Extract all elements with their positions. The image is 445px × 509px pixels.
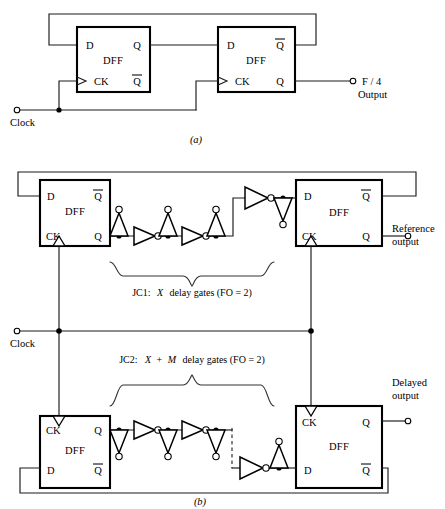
jc1-load-inverter-1-bubble — [116, 206, 122, 212]
panel-a-dff1-pin-qbar: Q — [133, 76, 141, 87]
panel-b-dff-tl-pin-q: Q — [94, 231, 102, 242]
panel-a-caption: (a) — [190, 134, 203, 146]
jc2-load-inverter-2-bubble — [165, 453, 171, 459]
panel-b-caption: (b) — [194, 496, 207, 508]
panel-b-clock-label: Clock — [10, 338, 36, 349]
jc2-load-inverter-1-bubble — [116, 453, 122, 459]
circuit-diagram: D Q DFF CK Q D Q DFF CK Q Clock F / 4 Ou… — [0, 0, 445, 509]
jc2-label-prefix: JC2: — [119, 354, 137, 365]
panel-a-clock-terminal — [14, 107, 20, 113]
jc2-chain-inverter-2 — [182, 421, 203, 439]
jc2-output-load-inverter-bubble — [276, 438, 282, 444]
jc1-inverter-chain — [110, 187, 296, 245]
panel-a-clock-label: Clock — [10, 117, 36, 128]
jc1-final-inverter — [245, 187, 268, 209]
jc1-brace — [110, 262, 274, 286]
panel-b-dff-bl-pin-qbar: Q — [94, 465, 102, 476]
panel-b-delayed-output-label-2: output — [392, 390, 419, 401]
jc2-brace — [110, 375, 274, 406]
jc1-chain-inverter-2 — [182, 227, 203, 245]
panel-b-delayed-output-terminal — [405, 418, 411, 424]
panel-b-dff-tl-pin-d: D — [47, 191, 55, 202]
jc1-load-inverter-3-bubble — [213, 206, 219, 212]
panel-b-delayed-output-label-1: Delayed — [392, 377, 428, 388]
panel-b-dff-tr-pin-qbar: Q — [362, 191, 370, 202]
panel-b-dff-tr-body: DFF — [329, 207, 349, 218]
jc2-final-inverter — [240, 457, 263, 479]
panel-a-clock-branch-dff1 — [59, 81, 77, 110]
panel-b-reference-output-label-1: Reference — [392, 223, 435, 234]
panel-a-clock-branch-dff2 — [196, 81, 218, 110]
panel-a-dff1-body: DFF — [103, 55, 123, 66]
panel-b-dff-tl-body: DFF — [65, 206, 85, 217]
panel-b-clock-right-node — [308, 328, 314, 334]
jc1-load-inverter-1 — [110, 213, 128, 236]
panel-b-dff-bl-pin-d: D — [47, 465, 55, 476]
panel-a-dff1-pin-d: D — [86, 40, 94, 51]
jc2-final-inverter-bubble — [263, 465, 269, 471]
jc1-riser-wire — [225, 198, 245, 236]
jc1-label: JC1: X delay gates (FO = 2) — [132, 287, 252, 299]
jc1-load-inverter-2-bubble — [165, 206, 171, 212]
panel-b-dff-tr-pin-d: D — [304, 191, 312, 202]
jc2-output-load-inverter — [270, 445, 288, 468]
jc2-label-var1: X — [144, 354, 152, 365]
panel-a-dff1-pin-q: Q — [133, 40, 141, 51]
panel-a-output-label-2: Output — [358, 89, 387, 100]
panel-b-dff-br-body: DFF — [329, 441, 349, 452]
jc1-output-load-inverter — [274, 198, 292, 221]
jc2-load-inverter-3-bubble — [213, 453, 219, 459]
jc1-label-prefix: JC1: — [132, 287, 150, 298]
panel-b-dff-tl-pin-qbar: Q — [94, 191, 102, 202]
jc2-inverter-chain — [110, 421, 296, 479]
panel-b-dff-bl-body: DFF — [65, 445, 85, 456]
panel-a-dff2-pin-d: D — [227, 40, 235, 51]
figure-root: D Q DFF CK Q D Q DFF CK Q Clock F / 4 Ou… — [0, 0, 445, 509]
panel-b-reference-output-label-2: output — [392, 236, 419, 247]
panel-a-dff2-pin-ck: CK — [235, 76, 250, 87]
panel-b-dff-br-pin-ck: CK — [302, 417, 317, 428]
panel-a-output-terminal — [350, 78, 356, 84]
panel-a: D Q DFF CK Q D Q DFF CK Q Clock F / 4 Ou… — [10, 14, 387, 146]
jc1-label-var: X — [156, 287, 164, 298]
panel-b-dff-bl-pin-q: Q — [94, 425, 102, 436]
panel-b-dff-br-pin-qbar: Q — [362, 465, 370, 476]
jc2-chain-inverter-1 — [134, 421, 155, 439]
jc1-load-inverter-3 — [207, 213, 225, 236]
jc2-load-inverter-2 — [159, 430, 177, 453]
panel-a-dff1-pin-ck: CK — [94, 76, 109, 87]
jc2-label-suffix: delay gates (FO = 2) — [183, 354, 265, 366]
panel-b-dff-tr-pin-q: Q — [362, 231, 370, 242]
panel-b: D Q DFF CK Q D Q DFF CK Q Reference outp… — [10, 172, 435, 508]
panel-b-clock-left-node — [56, 328, 62, 334]
panel-a-clock-junction-node — [56, 107, 61, 112]
jc2-label-var2: M — [167, 354, 177, 365]
panel-a-output-label-1: F / 4 — [362, 76, 382, 87]
jc2-load-inverter-3 — [207, 430, 225, 453]
panel-b-dff-br-pin-d: D — [304, 465, 312, 476]
panel-a-dff2-body: DFF — [246, 55, 266, 66]
jc2-load-inverter-1 — [110, 430, 128, 453]
panel-a-dff2-pin-qbar: Q — [276, 40, 284, 51]
panel-b-clock-terminal — [14, 328, 20, 334]
jc2-label: JC2: X + M delay gates (FO = 2) — [119, 354, 265, 366]
jc1-chain-inverter-1 — [134, 227, 155, 245]
jc1-output-load-inverter-bubble — [280, 221, 286, 227]
jc2-label-plus: + — [157, 354, 163, 365]
panel-b-dff-br-pin-q: Q — [362, 417, 370, 428]
jc1-label-suffix: delay gates (FO = 2) — [170, 287, 252, 299]
jc1-load-inverter-2 — [159, 213, 177, 236]
panel-a-dff2-pin-q: Q — [276, 76, 284, 87]
